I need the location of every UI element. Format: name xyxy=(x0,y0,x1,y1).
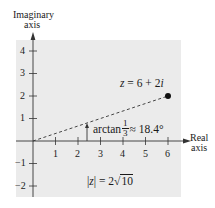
y-tick-neg2: −2 xyxy=(15,181,26,191)
y-tick-4: 4 xyxy=(20,46,25,56)
point-z xyxy=(165,93,171,99)
angle-label-suffix: ≈ 18.4° xyxy=(130,123,164,135)
angle-label-prefix: arctan xyxy=(93,123,121,135)
x-tick-2: 2 xyxy=(75,149,80,159)
angle-label-fraction: 1 3 xyxy=(122,119,129,138)
y-tick-3: 3 xyxy=(20,68,25,78)
modulus-label: |z| = 2√10 xyxy=(87,175,133,187)
y-tick-neg1: −1 xyxy=(15,158,26,168)
x-tick-3: 3 xyxy=(98,149,103,159)
imaginary-axis-arrow-icon xyxy=(31,32,36,40)
x-tick-4: 4 xyxy=(120,149,125,159)
y-tick-2: 2 xyxy=(20,91,25,101)
imaginary-axis-label-2: axis xyxy=(24,20,40,30)
modulus-eq: = 2 xyxy=(96,175,114,187)
x-tick-6: 6 xyxy=(165,149,170,159)
point-label-eq: = 6 + 2 xyxy=(124,77,160,89)
angle-label: arctan 1 3 ≈ 18.4° xyxy=(93,119,164,138)
fraction-denominator: 3 xyxy=(123,129,128,138)
x-tick-1: 1 xyxy=(53,149,58,159)
x-tick-5: 5 xyxy=(143,149,148,159)
point-label-imag: i xyxy=(160,77,163,89)
y-tick-1: 1 xyxy=(20,113,25,123)
point-label: z = 6 + 2i xyxy=(120,77,164,89)
modulus-radicand: 10 xyxy=(120,174,133,187)
real-axis-label-2: axis xyxy=(191,143,207,153)
